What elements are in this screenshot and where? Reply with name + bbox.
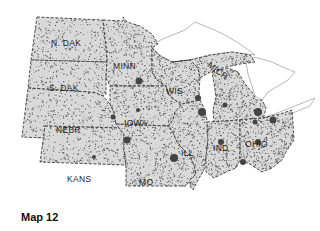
population-dot [187,159,188,160]
population-dot [105,158,106,159]
population-dot [138,33,139,34]
population-dot [185,169,186,170]
population-dot [171,101,172,102]
population-dot [100,163,101,164]
population-dot [271,131,272,132]
population-dot [241,113,242,114]
population-dot [193,92,194,93]
population-dot [189,99,190,100]
population-dot [129,159,130,160]
population-dot [275,129,276,130]
population-dot [154,41,155,42]
population-dot [149,135,150,136]
population-dot [231,58,232,59]
population-dot [56,160,57,161]
population-dot [33,95,34,96]
city-cluster-wichita [92,155,96,159]
population-dot [35,120,36,121]
population-dot [61,57,62,58]
population-dot [111,26,112,27]
population-dot [224,129,225,130]
population-dot [106,47,107,48]
population-dot [250,132,251,133]
population-dot [108,149,109,150]
population-dot [197,161,198,162]
population-dot [122,44,123,45]
population-dot [117,99,118,100]
population-dot [134,52,135,53]
population-dot [279,153,280,154]
population-dot [134,86,135,87]
population-dot [90,112,91,113]
population-dot [99,83,100,84]
population-dot [211,150,212,151]
population-dot [111,29,112,30]
population-dot [153,85,154,86]
population-dot [261,169,262,170]
population-dot [31,109,32,110]
population-dot [38,118,39,119]
population-dot [236,60,237,61]
population-dot [194,157,195,158]
population-dot [82,124,83,125]
population-dot [167,125,168,126]
population-dot [89,105,90,106]
population-dot [272,128,273,129]
population-dot [64,30,65,31]
population-dot [160,150,161,151]
population-dot [64,157,65,158]
population-dot [86,155,87,156]
population-dot [112,88,113,89]
population-dot [262,168,263,169]
population-dot [270,163,271,164]
population-dot [120,134,121,135]
population-dot [224,98,225,99]
population-dot [201,155,202,156]
population-dot [199,167,200,168]
population-dot [282,141,283,142]
population-dot [164,162,165,163]
population-dot [133,35,134,36]
population-dot [82,97,83,98]
population-dot [195,165,196,166]
population-dot [196,105,197,106]
population-dot [43,90,44,91]
population-dot [85,45,86,46]
population-dot [155,94,156,95]
population-dot [164,73,165,74]
population-dot [54,64,55,65]
population-dot [163,138,164,139]
population-dot [166,164,167,165]
population-dot [254,117,255,118]
population-dot [237,131,238,132]
population-dot [165,62,166,63]
population-dot [216,130,217,131]
population-dot [125,92,126,93]
population-dot [163,157,164,158]
population-dot [197,61,198,62]
population-dot [243,153,244,154]
population-dot [157,59,158,60]
population-dot [177,117,178,118]
population-dot [229,123,230,124]
population-dot [233,163,234,164]
population-dot [220,132,221,133]
population-dot [45,92,46,93]
population-dot [32,88,33,89]
population-dot [112,41,113,42]
population-dot [96,67,97,68]
population-dot [198,163,199,164]
population-dot [75,64,76,65]
population-dot [84,49,85,50]
population-dot [55,114,56,115]
population-dot [37,46,38,47]
population-dot [186,94,187,95]
population-dot [274,125,275,126]
population-dot [193,103,194,104]
population-dot [160,75,161,76]
population-dot [46,44,47,45]
population-dot [188,127,189,128]
population-dot [168,144,169,145]
population-dot [255,128,256,129]
population-dot [226,127,227,128]
